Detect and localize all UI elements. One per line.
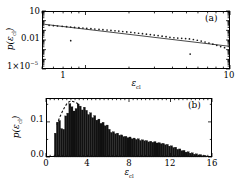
- figure-container: p(εcl) 10 0.01 1×10−5 1 10 εcl (a) p(εcl…: [0, 0, 235, 184]
- panel-b-data-layer: [0, 0, 235, 184]
